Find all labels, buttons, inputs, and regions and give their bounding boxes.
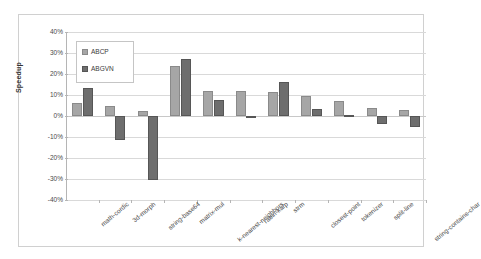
legend-label-abgvn: ABGVN bbox=[91, 66, 114, 73]
bar-string-contains-char-ABGVN bbox=[410, 116, 420, 127]
y-tick-label: -30% bbox=[35, 176, 63, 183]
y-tick-mark bbox=[65, 74, 68, 75]
y-tick-label: 20% bbox=[35, 71, 63, 78]
bar-string-base64-ABGVN bbox=[148, 116, 158, 180]
y-tick-label: -10% bbox=[35, 134, 63, 141]
bar-3d-morph-ABCP bbox=[105, 106, 115, 117]
bar-matrix-mul-ABGVN bbox=[181, 59, 191, 116]
y-axis-tick-labels: 40%30%20%10%0%-10%-20%-30%-40% bbox=[31, 32, 63, 200]
x-label-strm: strm bbox=[292, 201, 306, 214]
bar-split-line-ABCP bbox=[367, 108, 377, 116]
gridline-10% bbox=[66, 95, 426, 96]
bar-string-base64-ABCP bbox=[138, 111, 148, 116]
legend-entry-abgvn: ABGVN bbox=[82, 65, 133, 73]
bar-3d-morph-ABGVN bbox=[115, 116, 125, 140]
x-label-tokenizer: tokenizer bbox=[360, 201, 384, 223]
y-tick-label: -40% bbox=[35, 197, 63, 204]
x-label-closest-point: closest-point bbox=[330, 201, 362, 229]
y-tick-label: 0% bbox=[35, 113, 63, 120]
bar-k-nearest-neighbors-ABCP bbox=[203, 91, 213, 116]
x-label-string-base64: string-base64 bbox=[167, 201, 201, 231]
y-tick-label: 30% bbox=[35, 50, 63, 57]
x-tick-mark bbox=[426, 200, 427, 203]
bar-rabin-karp-ABGVN bbox=[246, 116, 256, 118]
x-label-matrix-mul: matrix-mul bbox=[198, 201, 225, 225]
x-axis-category-labels: math-cordic3d-morphstring-base64matrix-m… bbox=[66, 201, 426, 259]
legend-label-abcp: ABCP bbox=[91, 49, 109, 56]
bar-k-nearest-neighbors-ABGVN bbox=[214, 100, 224, 116]
y-tick-mark bbox=[65, 179, 68, 180]
y-axis-title: Speedup bbox=[15, 62, 22, 93]
legend-entry-abcp: ABCP bbox=[82, 48, 133, 56]
x-label-3d-morph: 3d-morph bbox=[132, 201, 157, 224]
bar-rabin-karp-ABCP bbox=[236, 91, 246, 116]
x-label-string-contains-char: string-contains-char bbox=[433, 201, 481, 243]
gridline-40% bbox=[66, 32, 426, 33]
x-label-math-cordic: math-cordic bbox=[100, 201, 130, 228]
y-tick-mark bbox=[65, 200, 68, 201]
chart-frame: Speedup 40%30%20%10%0%-10%-20%-30%-40% A… bbox=[18, 14, 424, 247]
y-tick-mark bbox=[65, 116, 68, 117]
x-label-split-line: split-line bbox=[392, 201, 414, 221]
bar-tokenizer-ABCP bbox=[334, 101, 344, 116]
bar-closest-point-ABCP bbox=[301, 96, 311, 116]
bar-string-contains-char-ABCP bbox=[399, 110, 409, 116]
bar-tokenizer-ABGVN bbox=[344, 115, 354, 117]
bar-closest-point-ABGVN bbox=[312, 109, 322, 116]
y-tick-label: 10% bbox=[35, 92, 63, 99]
y-tick-mark bbox=[65, 53, 68, 54]
gridline--30% bbox=[66, 179, 426, 180]
gridline--20% bbox=[66, 158, 426, 159]
bar-math-cordic-ABGVN bbox=[83, 88, 93, 116]
legend-swatch-icon-abcp bbox=[82, 49, 88, 55]
bar-strm-ABCP bbox=[268, 92, 278, 116]
bar-strm-ABGVN bbox=[279, 82, 289, 116]
bar-math-cordic-ABCP bbox=[72, 103, 82, 116]
y-tick-label: -20% bbox=[35, 155, 63, 162]
legend-swatch-icon-abgvn bbox=[82, 66, 88, 72]
y-tick-mark bbox=[65, 158, 68, 159]
bar-split-line-ABGVN bbox=[377, 116, 387, 124]
y-tick-mark bbox=[65, 32, 68, 33]
y-tick-label: 40% bbox=[35, 29, 63, 36]
y-tick-mark bbox=[65, 137, 68, 138]
chart-legend: ABCP ABGVN bbox=[76, 41, 134, 83]
bar-matrix-mul-ABCP bbox=[170, 66, 180, 116]
y-tick-mark bbox=[65, 95, 68, 96]
